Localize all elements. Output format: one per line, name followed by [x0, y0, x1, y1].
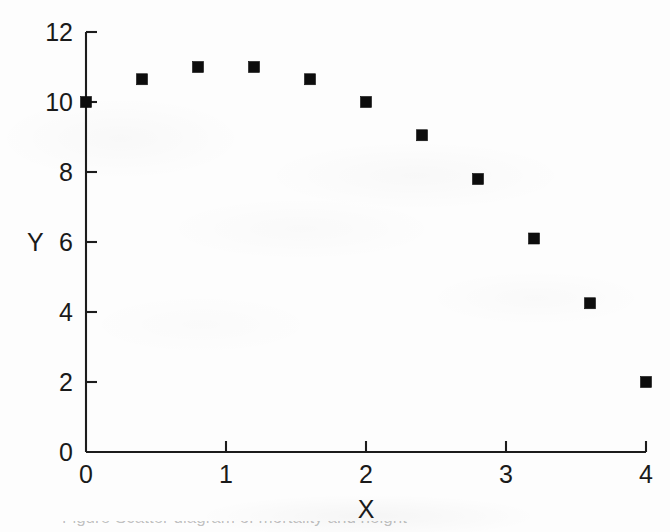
y-tick-label-2: 2	[59, 368, 73, 396]
y-axis-ticks	[86, 32, 97, 382]
axes-group	[86, 32, 646, 452]
y-tick-label-0: 0	[59, 438, 73, 466]
data-point	[249, 62, 260, 73]
data-point	[81, 97, 92, 108]
x-tick-label-4: 4	[639, 460, 653, 488]
x-tick-label-0: 0	[79, 460, 93, 488]
data-point	[137, 74, 148, 85]
scatter-chart: 024681012 01234 Y X	[0, 0, 670, 532]
y-tick-label-6: 6	[59, 228, 73, 256]
figure-page: 024681012 01234 Y X Figure Scatter diagr…	[0, 0, 670, 532]
data-point	[361, 97, 372, 108]
x-tick-label-3: 3	[499, 460, 513, 488]
y-axis-title: Y	[27, 228, 44, 256]
y-tick-label-8: 8	[59, 158, 73, 186]
data-point	[473, 174, 484, 185]
x-axis-ticks	[226, 441, 646, 452]
data-point	[529, 233, 540, 244]
data-point	[585, 298, 596, 309]
data-point	[193, 62, 204, 73]
y-tick-label-12: 12	[45, 18, 73, 46]
data-point	[305, 74, 316, 85]
y-tick-label-4: 4	[59, 298, 73, 326]
x-axis-title: X	[358, 495, 375, 523]
data-point	[641, 377, 652, 388]
data-point-group	[81, 62, 652, 388]
x-tick-label-2: 2	[359, 460, 373, 488]
x-tick-label-1: 1	[219, 460, 233, 488]
data-point	[417, 130, 428, 141]
y-tick-label-10: 10	[45, 88, 73, 116]
y-axis-tick-labels: 024681012	[45, 18, 73, 466]
x-axis-tick-labels: 01234	[79, 460, 653, 488]
